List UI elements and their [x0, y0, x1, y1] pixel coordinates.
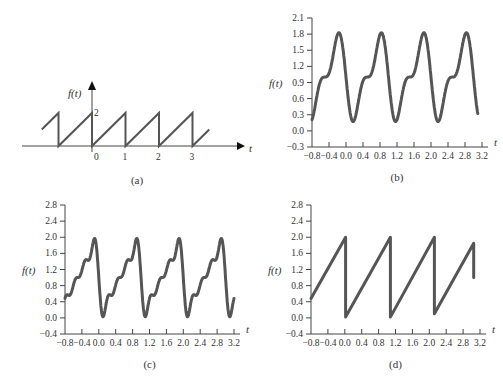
x-tick-label: 1.6 [160, 338, 172, 348]
signal-curve [312, 33, 478, 122]
y-tick-label: 1.5 [292, 45, 304, 55]
y-tick-label: 0.9 [292, 78, 304, 88]
x-tick-label: 2.8 [459, 151, 471, 161]
y-tick-label: 1.2 [292, 61, 304, 71]
x-tick-label: 0.0 [339, 338, 351, 348]
y-tick-label: 0.0 [291, 313, 303, 323]
x-tick-label: 2.4 [440, 338, 452, 348]
x-tick-label: 0.8 [373, 338, 385, 348]
y-axis-label: f(t) [269, 77, 283, 90]
caption-b: (b) [391, 171, 404, 184]
y-tick-label: 0.8 [291, 281, 303, 291]
x-tick-label: −0.8 [302, 338, 319, 348]
caption-c: (c) [143, 358, 156, 371]
y-tick-label: 1.2 [291, 265, 303, 275]
y-axis-label: f(t) [68, 87, 82, 100]
y-tick-label: 0.4 [291, 297, 303, 307]
y-tick-label: 0.3 [292, 110, 304, 120]
x-axis-label: t [246, 323, 250, 335]
chart-panel-d: −0.40.00.40.81.21.62.02.42.8−0.8−0.40.00… [268, 200, 496, 371]
y-axis-label: f(t) [22, 264, 36, 277]
x-tick-label: 2.0 [177, 338, 189, 348]
signal-curve [65, 238, 234, 316]
y-tick-label: 1.6 [291, 248, 303, 258]
y-tick-label: 2.8 [291, 200, 303, 210]
x-tick-label: 2.4 [442, 151, 454, 161]
y-axis-label: f(t) [268, 264, 282, 277]
signal-curve [311, 237, 474, 317]
x-tick-label: 1.2 [144, 338, 156, 348]
y-tick-label: 1.8 [292, 29, 304, 39]
x-tick-label: 1.2 [391, 151, 403, 161]
x-tick-label: 3.2 [474, 338, 486, 348]
y-tick-label: −0.3 [287, 142, 304, 152]
x-tick-label: −0.8 [303, 151, 320, 161]
x-tick-label: 2.0 [425, 151, 437, 161]
x-axis-label: t [249, 142, 253, 154]
x-tick-label: 0.8 [127, 338, 139, 348]
x-tick-label: 2.0 [423, 338, 435, 348]
x-axis-label: t [492, 323, 496, 335]
y-tick-label: 2.1 [292, 13, 304, 23]
x-tick-label: 2.8 [211, 338, 223, 348]
x-tick-label: −0.4 [73, 338, 90, 348]
x-tick-label: 3 [190, 152, 195, 162]
x-axis-arrow-icon [237, 142, 245, 150]
x-tick-label: 0.0 [340, 151, 352, 161]
x-tick-label: 2.4 [194, 338, 206, 348]
y-tick-label: 1.6 [45, 248, 57, 258]
x-tick-label: −0.4 [320, 151, 337, 161]
caption-a: (a) [131, 174, 144, 187]
y-tick-label: −0.4 [286, 329, 303, 339]
y-tick-label: 2.4 [291, 216, 303, 226]
x-axis-label: t [494, 136, 498, 148]
x-tick-label: 2.8 [457, 338, 469, 348]
y-tick-label: 0.0 [45, 313, 57, 323]
x-tick-label: 0.8 [374, 151, 386, 161]
figure-canvas: 20123f(t)t(a) −0.30.00.30.60.91.21.51.82… [0, 0, 503, 387]
caption-d: (d) [389, 358, 402, 371]
y-tick-label: 0.4 [45, 297, 57, 307]
x-tick-label: 3.2 [228, 338, 240, 348]
x-tick-label: 0 [94, 152, 99, 162]
y-tick-label: 2.4 [45, 216, 57, 226]
chart-panel-b: −0.30.00.30.60.91.21.51.82.1−0.8−0.40.00… [269, 13, 498, 184]
x-tick-label: 1.6 [406, 338, 418, 348]
x-tick-label: 1 [123, 152, 128, 162]
chart-panel-a: 20123f(t)t(a) [22, 81, 253, 187]
x-tick-label: 0.4 [357, 151, 369, 161]
x-tick-label: 2 [156, 152, 161, 162]
y-tick-label: 2.0 [45, 232, 57, 242]
x-tick-label: 3.2 [476, 151, 488, 161]
chart-panel-c: −0.40.00.40.81.21.62.02.42.8−0.8−0.40.00… [22, 200, 250, 371]
x-tick-label: 1.6 [408, 151, 420, 161]
y-tick-label: −0.4 [40, 329, 57, 339]
y-tick-label: 2.8 [45, 200, 57, 210]
sawtooth-curve [42, 113, 210, 146]
x-tick-label: −0.8 [56, 338, 73, 348]
x-tick-label: 1.2 [390, 338, 402, 348]
y-tick-label: 0.0 [292, 126, 304, 136]
x-tick-label: 0.0 [93, 338, 105, 348]
y-tick-label: 2.0 [291, 232, 303, 242]
y-tick-label: 2 [94, 108, 99, 118]
y-tick-label: 0.8 [45, 281, 57, 291]
x-tick-label: 0.4 [110, 338, 122, 348]
x-tick-label: −0.4 [319, 338, 336, 348]
y-axis-arrow-icon [88, 81, 96, 90]
y-tick-label: 0.6 [292, 94, 304, 104]
x-tick-label: 0.4 [356, 338, 368, 348]
y-tick-label: 1.2 [45, 265, 57, 275]
